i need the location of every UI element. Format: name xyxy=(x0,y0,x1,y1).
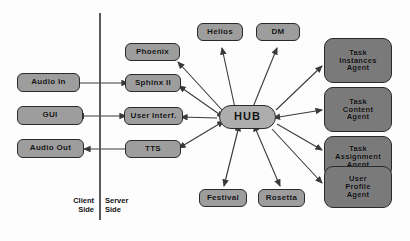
node-user-interface[interactable]: User Interf. xyxy=(124,107,183,125)
client-side-label: Client Side xyxy=(52,196,94,215)
edge-hub-user-profile xyxy=(272,129,322,183)
edge-hub-userinterf xyxy=(181,117,217,118)
node-audio-out[interactable]: Audio Out xyxy=(17,139,84,158)
server-side-label-line2: Side xyxy=(105,205,149,214)
architecture-diagram: Client Side Server Side Audio In GUI Aud… xyxy=(0,0,410,241)
client-server-divider xyxy=(99,13,101,220)
edge-hub-festival xyxy=(224,130,238,186)
node-task-instances-agent[interactable]: Task Instances Agent xyxy=(324,38,392,83)
node-helios[interactable]: Helios xyxy=(197,23,243,41)
node-phoenix[interactable]: Phoenix xyxy=(125,43,180,61)
server-side-label-line1: Server xyxy=(105,196,149,205)
edge-hub-task-assignment xyxy=(277,124,322,150)
node-task-content-agent[interactable]: Task Content Agent xyxy=(324,87,392,132)
node-tts[interactable]: TTS xyxy=(125,140,181,158)
node-audio-in[interactable]: Audio In xyxy=(17,73,80,92)
edge-hub-helios xyxy=(222,48,235,108)
edge-hub-dm xyxy=(253,48,277,107)
node-festival[interactable]: Festival xyxy=(199,189,247,207)
task-content-agent-line3: Agent xyxy=(347,113,370,121)
server-side-label: Server Side xyxy=(105,196,149,215)
client-side-label-line2: Side xyxy=(52,205,94,214)
node-hub[interactable]: HUB xyxy=(219,105,276,129)
node-user-profile-agent[interactable]: User Profile Agent xyxy=(324,166,392,208)
client-side-label-line1: Client xyxy=(52,196,94,205)
edge-hub-task-instances xyxy=(276,66,322,110)
edge-hub-sphinx xyxy=(179,86,219,114)
node-gui[interactable]: GUI xyxy=(17,106,83,125)
edge-hub-phoenix xyxy=(178,62,222,110)
edge-hub-tts xyxy=(179,124,219,148)
node-sphinx-ii[interactable]: Sphinx II xyxy=(125,74,181,92)
node-dm[interactable]: DM xyxy=(256,23,300,41)
node-rosetta[interactable]: Rosetta xyxy=(258,189,305,207)
task-instances-agent-line3: Agent xyxy=(347,64,370,72)
user-profile-agent-line3: Agent xyxy=(347,191,370,199)
edge-hub-task-content xyxy=(279,110,322,117)
edge-hub-rosetta xyxy=(256,130,280,186)
